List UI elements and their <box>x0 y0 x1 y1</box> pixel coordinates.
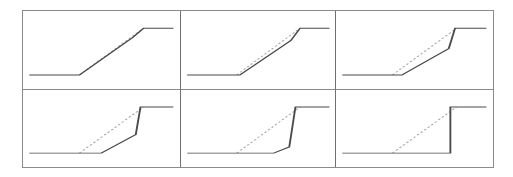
chart-panel-2[interactable] <box>180 11 337 89</box>
panel-2-reference-line <box>236 28 299 75</box>
panel-6-reference-line <box>393 107 457 153</box>
panel-1-plot <box>23 11 180 89</box>
panel-3-response-curve <box>343 28 487 75</box>
chart-panel-1[interactable] <box>23 11 180 89</box>
chart-panel-6[interactable] <box>336 89 493 167</box>
screenshot-root <box>0 0 513 177</box>
panel-3-plot <box>336 11 493 89</box>
panel-6-plot <box>336 90 493 167</box>
chart-panel-3[interactable] <box>336 11 493 89</box>
figure-frame <box>22 10 494 168</box>
panel-6-response-curve <box>343 107 487 153</box>
panel-5-reference-line <box>236 107 299 153</box>
panel-4-plot <box>23 90 180 167</box>
chart-panel-4[interactable] <box>23 89 180 167</box>
panel-4-reference-line <box>79 107 143 153</box>
panel-grid <box>23 11 493 167</box>
panel-3-reference-line <box>393 28 457 75</box>
panel-2-response-curve <box>187 28 329 75</box>
panel-5-plot <box>181 90 336 167</box>
panel-5-response-curve <box>187 107 329 153</box>
panel-2-plot <box>181 11 336 89</box>
panel-4-response-curve <box>29 107 173 153</box>
panel-1-response-curve <box>29 28 173 75</box>
chart-panel-5[interactable] <box>180 89 337 167</box>
